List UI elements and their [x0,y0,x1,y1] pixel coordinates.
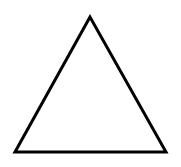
triangle-figure [0,0,181,167]
diagram-canvas [0,0,181,167]
triangle-shape [15,17,166,152]
